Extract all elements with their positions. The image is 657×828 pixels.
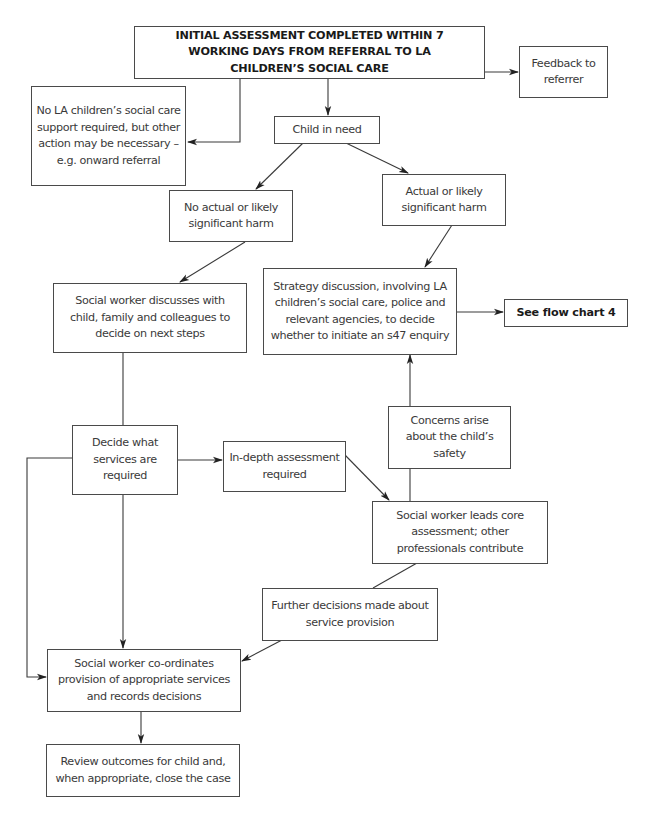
actual-harm-text: Actual or likely significant harm	[386, 184, 502, 217]
in-depth-box: In-depth assessment required	[223, 441, 346, 492]
concerns-arise-box: Concerns arise about the child’s safety	[388, 406, 511, 469]
concerns-arise-text: Concerns arise about the child’s safety	[392, 413, 507, 463]
no-la-support-text: No LA children’s social care support req…	[35, 103, 182, 169]
child-in-need-box: Child in need	[274, 116, 380, 144]
child-in-need-text: Child in need	[293, 122, 362, 139]
see-flow-chart-4-box: See flow chart 4	[504, 299, 628, 327]
sw-discusses-text: Social worker discusses with child, fami…	[57, 293, 243, 343]
actual-harm-box: Actual or likely significant harm	[382, 174, 506, 226]
coordinates-text: Social worker co-ordinates provision of …	[51, 656, 237, 706]
initial-assessment-box: INITIAL ASSESSMENT COMPLETED WITHIN 7 WO…	[134, 26, 485, 79]
see-flow-chart-4-text: See flow chart 4	[516, 305, 615, 322]
coordinates-box: Social worker co-ordinates provision of …	[47, 649, 241, 712]
decide-services-text: Decide what services are required	[76, 435, 174, 485]
feedback-text: Feedback to referrer	[523, 56, 604, 89]
no-harm-text: No actual or likely significant harm	[173, 200, 289, 233]
core-assessment-box: Social worker leads core assessment; oth…	[372, 501, 548, 564]
sw-discusses-box: Social worker discusses with child, fami…	[53, 283, 247, 353]
no-la-support-box: No LA children’s social care support req…	[31, 86, 186, 186]
review-outcomes-box: Review outcomes for child and, when appr…	[46, 744, 240, 797]
decide-services-box: Decide what services are required	[72, 425, 178, 495]
review-outcomes-text: Review outcomes for child and, when appr…	[50, 754, 236, 787]
in-depth-text: In-depth assessment required	[227, 450, 342, 483]
strategy-discussion-box: Strategy discussion, involving LA childr…	[263, 268, 457, 355]
strategy-discussion-text: Strategy discussion, involving LA childr…	[267, 279, 453, 345]
initial-assessment-text: INITIAL ASSESSMENT COMPLETED WITHIN 7 WO…	[138, 28, 481, 78]
feedback-box: Feedback to referrer	[519, 46, 608, 98]
further-decisions-box: Further decisions made about service pro…	[262, 588, 438, 641]
core-assessment-text: Social worker leads core assessment; oth…	[376, 508, 544, 558]
further-decisions-text: Further decisions made about service pro…	[266, 598, 434, 631]
no-harm-box: No actual or likely significant harm	[169, 190, 293, 242]
